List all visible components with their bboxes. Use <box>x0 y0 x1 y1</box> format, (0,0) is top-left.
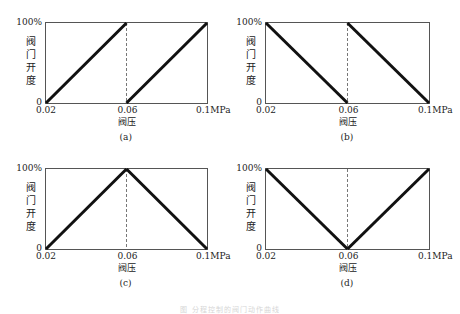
x-tick-0.06: 0.06 <box>339 105 359 115</box>
x-tick-0.06: 0.06 <box>339 251 359 261</box>
y-tick-top: 100% <box>12 163 42 173</box>
y-axis-label: 阀门开度 <box>245 181 257 233</box>
x-axis-label: 阀压 <box>118 263 136 273</box>
panel-label: (d) <box>341 278 354 288</box>
chart-panel-b: 100%0阀门开度0.020.060.1MPa阀压(b) <box>230 0 460 150</box>
series-line-2 <box>348 23 430 103</box>
plot-area <box>265 168 430 250</box>
y-axis-label-char: 开 <box>25 207 37 220</box>
x-tick-0.06: 0.06 <box>118 251 138 261</box>
plot-svg <box>46 169 207 249</box>
y-tick-top: 100% <box>12 17 42 27</box>
series-line-1 <box>266 169 348 249</box>
y-axis-label: 阀门开度 <box>25 181 37 233</box>
panel-label: (a) <box>120 132 132 142</box>
panel-label: (b) <box>341 132 354 142</box>
series-line-2 <box>127 23 208 103</box>
series-line-1 <box>46 169 127 249</box>
series-line-1 <box>266 23 348 103</box>
series-line-2 <box>127 169 208 249</box>
y-tick-top: 100% <box>232 163 262 173</box>
y-axis-label-char: 度 <box>25 74 37 87</box>
x-tick-0.1: 0.1MPa <box>418 251 453 261</box>
y-axis-label-char: 阀 <box>25 181 37 194</box>
x-tick-0.02: 0.02 <box>256 105 276 115</box>
y-axis-label-char: 开 <box>245 207 257 220</box>
x-tick-0.1: 0.1MPa <box>196 105 231 115</box>
chart-panel-c: 100%0阀门开度0.020.060.1MPa阀压(c) <box>0 157 230 307</box>
plot-area <box>265 22 430 104</box>
figure-caption: 图 分程控制的阀门动作曲线 <box>0 304 460 314</box>
x-axis-label: 阀压 <box>339 117 357 127</box>
y-tick-top: 100% <box>232 17 262 27</box>
series-line-2 <box>348 169 430 249</box>
y-axis-label-char: 阀 <box>245 181 257 194</box>
y-axis-label-char: 阀 <box>245 35 257 48</box>
y-axis-label-char: 门 <box>245 48 257 61</box>
x-tick-0.06: 0.06 <box>118 105 138 115</box>
x-axis-label: 阀压 <box>118 117 136 127</box>
plot-svg <box>46 23 207 103</box>
y-axis-label-char: 门 <box>245 194 257 207</box>
x-tick-0.1: 0.1MPa <box>418 105 453 115</box>
chart-panel-a: 100%0阀门开度0.020.060.1MPa阀压(a) <box>0 0 230 150</box>
x-tick-0.1: 0.1MPa <box>196 251 231 261</box>
y-axis-label-char: 阀 <box>25 35 37 48</box>
x-axis-label: 阀压 <box>339 263 357 273</box>
y-axis-label-char: 度 <box>245 220 257 233</box>
x-tick-0.02: 0.02 <box>36 105 56 115</box>
y-axis-label-char: 度 <box>245 74 257 87</box>
y-axis-label-char: 度 <box>25 220 37 233</box>
y-axis-label: 阀门开度 <box>245 35 257 87</box>
plot-svg <box>266 23 429 103</box>
plot-area <box>45 168 208 250</box>
panel-label: (c) <box>120 278 132 288</box>
plot-svg <box>266 169 429 249</box>
chart-panel-d: 100%0阀门开度0.020.060.1MPa阀压(d) <box>230 157 460 307</box>
y-axis-label: 阀门开度 <box>25 35 37 87</box>
y-axis-label-char: 门 <box>25 194 37 207</box>
series-line-1 <box>46 23 127 103</box>
y-axis-label-char: 开 <box>25 61 37 74</box>
plot-area <box>45 22 208 104</box>
x-tick-0.02: 0.02 <box>256 251 276 261</box>
y-axis-label-char: 门 <box>25 48 37 61</box>
y-axis-label-char: 开 <box>245 61 257 74</box>
x-tick-0.02: 0.02 <box>36 251 56 261</box>
